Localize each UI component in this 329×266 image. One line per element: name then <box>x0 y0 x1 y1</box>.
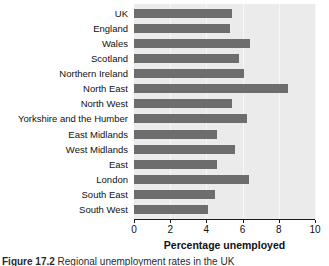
y-axis-tick-label: UK <box>0 9 131 18</box>
x-axis-tick-label: 8 <box>276 224 282 235</box>
y-axis-tick-label: England <box>0 24 131 33</box>
bar-row <box>134 205 315 214</box>
y-axis-tick-label: South East <box>0 190 131 199</box>
figure-caption-text: Regional unemployment rates in the UK <box>55 256 235 266</box>
x-axis-title: Percentage unemployed <box>134 239 315 251</box>
bar-row <box>134 99 315 108</box>
gridline <box>315 4 316 219</box>
y-axis-tick-label: West Midlands <box>0 145 131 154</box>
y-axis-tick-label: Northern Ireland <box>0 69 131 78</box>
x-axis-line <box>134 219 315 220</box>
bar-row <box>134 114 315 123</box>
x-axis-tick-label: 10 <box>309 224 320 235</box>
bar-row <box>134 190 315 199</box>
bar-row <box>134 54 315 63</box>
x-axis-tick-mark <box>170 220 171 223</box>
x-axis-tick-mark <box>206 220 207 223</box>
bar-row <box>134 69 315 78</box>
y-axis-tick-label: Wales <box>0 39 131 48</box>
bar <box>134 24 230 33</box>
plot-area <box>134 4 315 219</box>
y-axis-labels: UK England Wales Scotland Northern Irela… <box>0 4 131 219</box>
bar-row <box>134 145 315 154</box>
x-axis-tick-mark <box>134 220 135 223</box>
bar <box>134 205 208 214</box>
bar-row <box>134 9 315 18</box>
bar <box>134 130 217 139</box>
figure-container: UK England Wales Scotland Northern Irela… <box>0 0 329 266</box>
bar-row <box>134 130 315 139</box>
bar-row <box>134 84 315 93</box>
bar-row <box>134 175 315 184</box>
bar-row <box>134 24 315 33</box>
bar <box>134 54 239 63</box>
y-axis-tick-label: East Midlands <box>0 130 131 139</box>
figure-caption-label: Figure 17.2 <box>2 256 55 266</box>
bar <box>134 145 235 154</box>
bar <box>134 160 217 169</box>
x-axis-tick-label: 2 <box>167 224 173 235</box>
bar-row <box>134 160 315 169</box>
y-axis-tick-label: North East <box>0 84 131 93</box>
x-axis-tick-mark <box>279 220 280 223</box>
y-axis-tick-label: Scotland <box>0 54 131 63</box>
x-axis-tick-mark <box>315 220 316 223</box>
bar <box>134 99 232 108</box>
bar <box>134 69 244 78</box>
x-axis-tick-mark <box>243 220 244 223</box>
x-axis-tick-label: 0 <box>131 224 137 235</box>
figure-caption: Figure 17.2 Regional unemployment rates … <box>2 256 329 266</box>
y-axis-tick-label: North West <box>0 99 131 108</box>
bar <box>134 114 247 123</box>
bar <box>134 175 249 184</box>
bar <box>134 190 215 199</box>
x-axis-tick-label: 4 <box>204 224 210 235</box>
y-axis-tick-label: London <box>0 175 131 184</box>
y-axis-tick-label: Yorkshire and the Humber <box>0 114 131 123</box>
bar <box>134 9 232 18</box>
x-axis-tick-label: 6 <box>240 224 246 235</box>
y-axis-tick-label: South West <box>0 205 131 214</box>
bar-row <box>134 39 315 48</box>
y-axis-tick-label: East <box>0 160 131 169</box>
bar <box>134 84 288 93</box>
bar <box>134 39 250 48</box>
bar-series <box>134 4 315 219</box>
